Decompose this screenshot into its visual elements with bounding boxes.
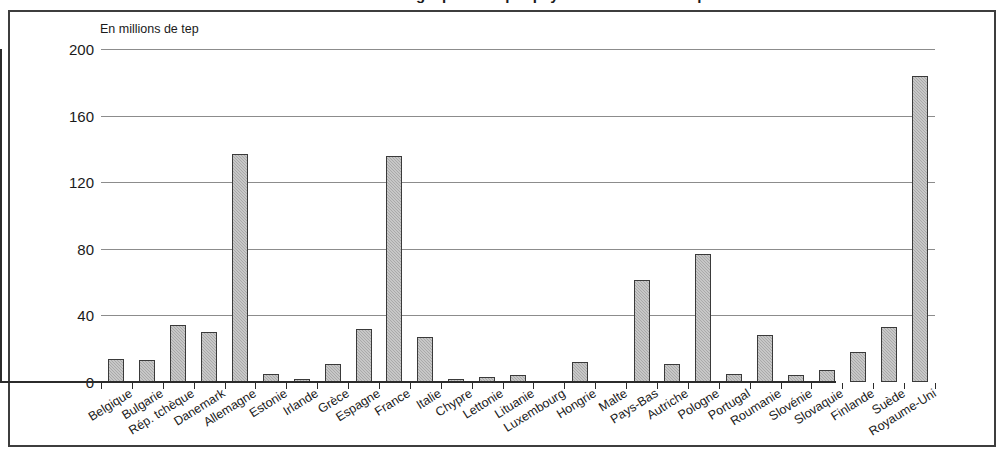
y-axis-tick-labels: 04080120160200 [50, 49, 94, 382]
bar [232, 154, 248, 382]
bar [139, 360, 155, 382]
y-tick-label-160: 160 [54, 107, 94, 124]
x-tick-mark [750, 383, 751, 389]
bar [634, 280, 650, 382]
x-tick-mark [379, 383, 380, 389]
x-tick-mark [873, 383, 874, 389]
bar [572, 362, 588, 382]
bar [108, 359, 124, 382]
bar [201, 332, 217, 382]
x-tick-mark [719, 383, 720, 389]
y-tick-label-40: 40 [54, 307, 94, 324]
plot-area [101, 49, 935, 382]
chart-page: Consommation d'énergie primaire par pays… [0, 0, 1008, 461]
x-tick-mark [564, 383, 565, 389]
x-tick-mark [286, 383, 287, 389]
x-tick-mark [781, 383, 782, 389]
x-tick-mark [935, 383, 936, 389]
y-tick-label-200: 200 [54, 41, 94, 58]
bar [757, 335, 773, 382]
x-tick-mark [194, 383, 195, 389]
x-tick-mark [317, 383, 318, 389]
x-tick-mark [441, 383, 442, 389]
bar [912, 76, 928, 382]
bar [325, 364, 341, 382]
x-tick-mark [595, 383, 596, 389]
x-tick-mark [626, 383, 627, 389]
bar [170, 325, 186, 382]
cut-off-title-text: Consommation d'énergie primaire par pays… [258, 0, 749, 3]
bar [417, 337, 433, 382]
bar [356, 329, 372, 382]
x-tick-mark [132, 383, 133, 389]
y-axis-line [0, 49, 2, 383]
bar [664, 364, 680, 382]
x-tick-mark [255, 383, 256, 389]
x-tick-mark [225, 383, 226, 389]
bar [881, 327, 897, 382]
axis-note-label: En millions de tep [100, 22, 199, 36]
cut-off-title: Consommation d'énergie primaire par pays… [0, 0, 1008, 8]
x-tick-mark [503, 383, 504, 389]
gridline-120 [101, 182, 935, 183]
gridline-200 [101, 49, 935, 50]
x-tick-mark [410, 383, 411, 389]
y-tick-label-80: 80 [54, 240, 94, 257]
x-tick-mark [842, 383, 843, 389]
x-tick-mark [472, 383, 473, 389]
x-axis-line [0, 381, 836, 383]
x-tick-mark [811, 383, 812, 389]
x-tick-mark [904, 383, 905, 389]
gridline-160 [101, 116, 935, 117]
gridline-40 [101, 315, 935, 316]
x-tick-mark [688, 383, 689, 389]
bar [386, 156, 402, 382]
x-tick-mark [348, 383, 349, 389]
x-tick-mark [163, 383, 164, 389]
bar [695, 254, 711, 382]
x-tick-mark [657, 383, 658, 389]
y-tick-label-120: 120 [54, 174, 94, 191]
gridline-80 [101, 249, 935, 250]
bar [850, 352, 866, 382]
x-tick-mark [101, 383, 102, 389]
x-tick-mark [533, 383, 534, 389]
